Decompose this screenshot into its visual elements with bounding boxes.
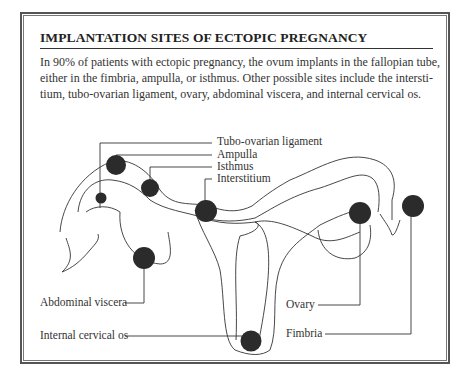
internal-os-dot (241, 331, 262, 352)
label-internal-cervical-os: Internal cervical os (40, 329, 128, 341)
label-isthmus: Isthmus (217, 160, 253, 172)
label-abdominal-viscera: Abdominal viscera (40, 296, 127, 308)
label-fimbria: Fimbria (286, 327, 322, 339)
label-tubo-ovarian: Tubo-ovarian ligament (217, 135, 322, 147)
ovary-dot (349, 202, 371, 224)
abdominal-dot (133, 247, 155, 269)
label-ovary: Ovary (286, 298, 315, 310)
tubo-ovarian-dot (96, 193, 107, 204)
implantation-site-dots (96, 155, 425, 352)
uterus-diagram (0, 0, 468, 379)
interstitium-dot (195, 200, 217, 222)
label-ampulla: Ampulla (217, 148, 257, 160)
label-interstitium: Interstitium (217, 172, 271, 184)
isthmus-dot (141, 179, 159, 197)
ampulla-dot (106, 155, 126, 175)
fimbria-dot (402, 195, 424, 217)
